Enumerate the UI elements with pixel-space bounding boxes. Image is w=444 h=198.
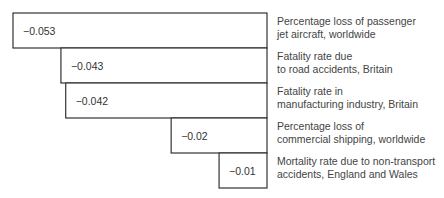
category-label: Fatality rate in [277, 85, 343, 97]
bar-value-label: −0.043 [71, 60, 104, 72]
category-label: Mortality rate due to non-transport [277, 155, 435, 167]
category-label: Fatality rate due [277, 50, 352, 62]
category-label: accidents, England and Wales [277, 168, 418, 180]
category-label: commercial shipping, worldwide [277, 133, 425, 145]
chart: −0.053−0.043−0.042−0.02−0.01 Percentage … [0, 0, 444, 198]
category-labels-group: Percentage loss of passengerjet aircraft… [276, 15, 435, 180]
bar-value-label: −0.01 [229, 165, 256, 177]
category-label: manufacturing industry, Britain [277, 98, 418, 110]
category-label: jet aircraft, worldwide [276, 28, 376, 40]
bar-value-label: −0.02 [181, 130, 208, 142]
bar-value-label: −0.042 [76, 95, 109, 107]
category-label: Percentage loss of passenger [277, 15, 416, 27]
category-label: Percentage loss of [277, 120, 364, 132]
bar-value-label: −0.053 [23, 25, 56, 37]
bars-group: −0.053−0.043−0.042−0.02−0.01 [13, 13, 267, 188]
category-label: to road accidents, Britain [277, 63, 393, 75]
